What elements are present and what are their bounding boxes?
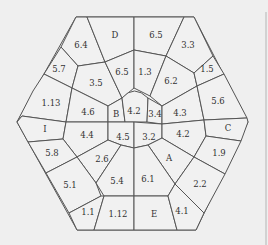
label-4-2-right: 4.2 [176,129,190,139]
label-e: E [151,209,157,219]
label-5-8: 5.8 [45,148,59,158]
label-4-3: 4.3 [173,108,187,118]
label-c: C [225,123,232,133]
label-4-4: 4.4 [80,130,94,140]
label-2-2: 2.2 [193,179,207,189]
label-i: I [43,124,46,134]
label-d: D [112,30,119,40]
label-2-6: 2.6 [95,154,109,164]
label-4-5: 4.5 [116,132,130,142]
label-1-1: 1.1 [81,207,95,217]
label-5-6: 5.6 [211,96,225,106]
label-3-3: 3.3 [181,40,195,50]
label-1-5: 1.5 [200,64,214,74]
label-b: B [113,109,119,119]
label-5-1: 5.1 [63,180,77,190]
label-4-2-center: 4.2 [127,106,141,116]
hexagon-diagram: 6.4 D 6.5 3.3 5.7 3.5 6.5 1.3 6.2 1.5 1.… [0,0,268,245]
label-4-6: 4.6 [81,107,95,117]
label-6-2: 6.2 [164,76,178,86]
label-6-5-top: 6.5 [149,30,163,40]
label-6-4: 6.4 [74,40,88,50]
label-4-1: 4.1 [175,206,189,216]
label-5-4: 5.4 [110,176,124,186]
label-3-4: 3.4 [148,109,162,119]
label-5-7: 5.7 [52,64,66,74]
label-1-9: 1.9 [212,148,226,158]
label-3-2: 3.2 [142,132,156,142]
label-3-5: 3.5 [89,78,103,88]
label-6-5-inner: 6.5 [115,67,129,77]
label-1-3: 1.3 [138,67,152,77]
label-a: A [165,153,173,163]
label-6-1: 6.1 [141,174,155,184]
label-1-12: 1.12 [109,209,128,219]
label-1-13: 1.13 [42,98,61,108]
right-divider [265,12,267,245]
